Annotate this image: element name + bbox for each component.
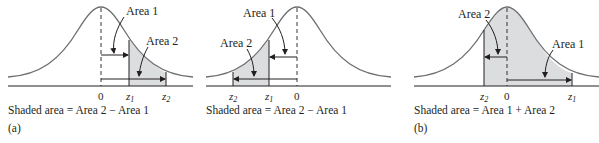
normal-curves-diagram: Area 1 Area 2 Area 1 Area 2 Area 2 Area …	[0, 0, 599, 143]
area2-label: Area 2	[146, 34, 178, 48]
tick-z2: z2	[228, 90, 237, 104]
tick-z1: z1	[567, 90, 576, 104]
area2-label: Area 2	[220, 36, 252, 50]
area1-label: Area 1	[243, 6, 275, 20]
tick-zero: 0	[98, 90, 104, 102]
caption-panel-b: Shaded area = Area 1 + Area 2	[414, 104, 555, 116]
part-label-b: (b)	[414, 122, 427, 134]
area1-label: Area 1	[126, 4, 158, 18]
part-label-a: (a)	[8, 122, 21, 134]
area2-label: Area 2	[458, 7, 490, 21]
tick-z1: z1	[264, 90, 273, 104]
caption-panel-a2: Shaded area = Area 2 − Area 1	[206, 104, 347, 116]
area1-label: Area 1	[552, 37, 584, 51]
tick-zero: 0	[504, 90, 510, 102]
tick-zero: 0	[294, 90, 300, 102]
tick-z2: z2	[161, 90, 170, 104]
tick-z2: z2	[479, 90, 488, 104]
caption-panel-a: Shaded area = Area 2 − Area 1	[8, 104, 149, 116]
tick-z1: z1	[125, 90, 134, 104]
